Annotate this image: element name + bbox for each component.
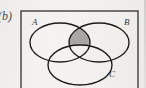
label-set-a: A: [31, 17, 38, 27]
shaded-region-a-and-b-not-c: [0, 0, 146, 88]
label-set-b: B: [124, 17, 130, 27]
label-set-c: C: [109, 69, 116, 79]
venn-diagram-figure: (b): [0, 0, 146, 88]
page-edge-artifact: [144, 0, 146, 88]
venn-diagram-canvas: A B C: [0, 0, 146, 88]
shaded-region-group: [0, 0, 146, 88]
